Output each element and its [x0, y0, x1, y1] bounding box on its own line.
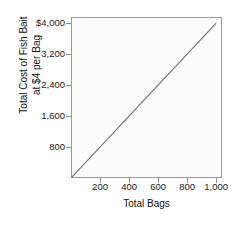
x-tick-label: 200 [92, 181, 108, 193]
x-tick-label: 800 [179, 181, 195, 193]
x-tick-label: 600 [150, 181, 166, 193]
chart-figure: 8001,6002,4003,200$4,000 2004006008001,0… [0, 0, 236, 232]
x-axis-title: Total Bags [71, 198, 222, 209]
y-tick-mark [66, 54, 72, 55]
x-axis-tick-labels: 2004006008001,000 [71, 181, 222, 197]
y-axis-title: Total Cost of Fish Bait at $4 per Bag [15, 0, 45, 140]
y-tick-mark [66, 85, 72, 86]
y-tick-mark [66, 23, 72, 24]
y-tick-mark [66, 116, 72, 117]
x-tick-label: 1,000 [204, 181, 228, 193]
y-tick-label: 800 [0, 142, 65, 152]
cost-line-series [71, 23, 216, 178]
y-tick-mark [66, 147, 72, 148]
y-axis-title-line-1: Total Cost of Fish Bait [17, 16, 30, 113]
y-axis-title-line-2: at $4 per Bag [30, 35, 43, 95]
x-tick-label: 400 [121, 181, 137, 193]
plot-data-layer [71, 17, 222, 178]
